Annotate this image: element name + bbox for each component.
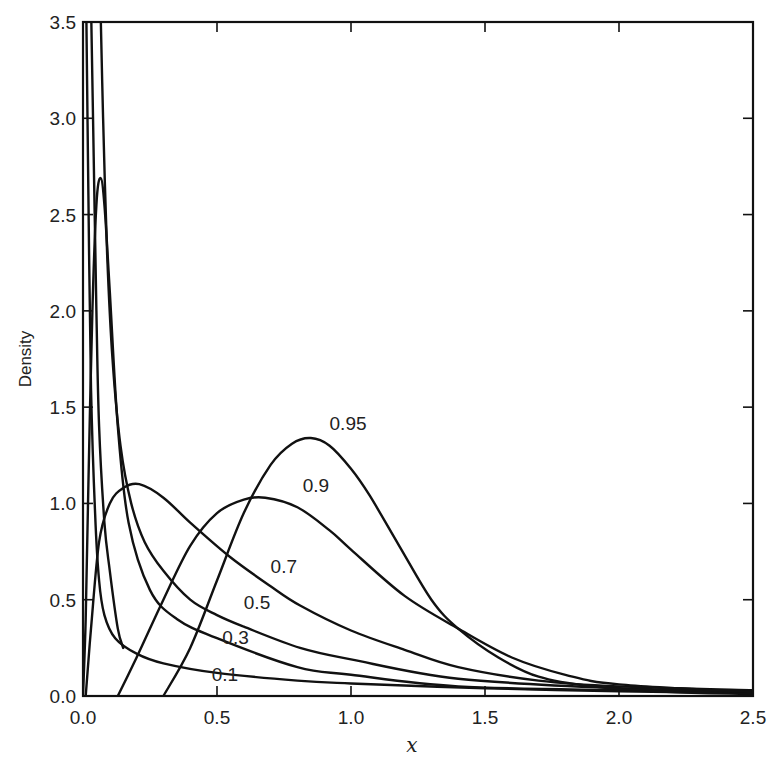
curve-label-0.1: 0.1 — [212, 664, 238, 685]
x-tick-label: 2.5 — [740, 707, 766, 728]
density-curve-0.5 — [100, 3, 753, 692]
y-tick-label: 3.5 — [50, 12, 76, 33]
x-tick-label: 0.5 — [204, 707, 230, 728]
curve-label-0.95: 0.95 — [330, 413, 367, 434]
y-axis-label: Density — [16, 330, 35, 387]
y-tick-labels: 0.00.51.01.52.02.53.03.5 — [50, 12, 76, 707]
y-tick-label: 0.0 — [50, 686, 76, 707]
x-tick-label: 1.5 — [472, 707, 498, 728]
density-curve-0.95 — [163, 438, 753, 696]
y-tick-label: 2.0 — [50, 301, 76, 322]
density-curve-0.7-body — [86, 484, 753, 696]
y-tick-label: 0.5 — [50, 590, 76, 611]
curve-label-0.7: 0.7 — [271, 556, 297, 577]
x-tick-label: 0.0 — [70, 707, 96, 728]
curve-label-0.5: 0.5 — [244, 592, 270, 613]
x-tick-labels: 0.00.51.01.52.02.5 — [70, 707, 766, 728]
y-tick-label: 3.0 — [50, 108, 76, 129]
y-tick-label: 1.0 — [50, 493, 76, 514]
density-curve-0.1 — [86, 3, 753, 693]
curve-label-0.3: 0.3 — [222, 627, 248, 648]
y-tick-label: 1.5 — [50, 397, 76, 418]
x-axis-label: x — [406, 733, 417, 757]
density-chart: 0.00.51.01.52.02.5 0.00.51.01.52.02.53.0… — [0, 0, 779, 772]
x-tick-label: 1.0 — [338, 707, 364, 728]
x-tick-label: 2.0 — [606, 707, 632, 728]
density-curves — [83, 3, 753, 696]
y-tick-label: 2.5 — [50, 205, 76, 226]
density-curve-0.3 — [83, 178, 753, 696]
curve-label-0.9: 0.9 — [303, 475, 329, 496]
